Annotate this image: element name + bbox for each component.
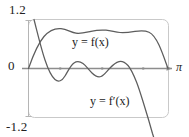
figure-panel: 1.2 -1.2 0 π y = f(x) y = f′(x) bbox=[0, 0, 189, 137]
curve-label-f: y = f(x) bbox=[72, 36, 109, 48]
chart-canvas bbox=[0, 0, 189, 137]
x-axis-max-label: π bbox=[176, 61, 182, 73]
y-axis-max-label: 1.2 bbox=[9, 3, 26, 16]
y-axis-min-label: -1.2 bbox=[6, 120, 27, 133]
origin-label: 0 bbox=[8, 59, 15, 72]
curve-label-f-prime: y = f′(x) bbox=[90, 95, 129, 107]
